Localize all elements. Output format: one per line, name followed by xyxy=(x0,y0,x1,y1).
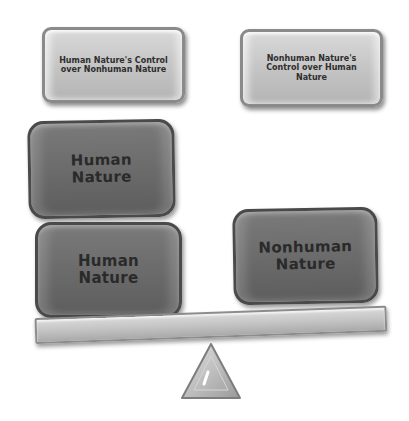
block-nonhuman-nature-text: Nonhuman Nature xyxy=(250,238,361,274)
block-human-nature-top-text: Human Nature xyxy=(61,151,142,187)
block-human-nature-bottom: Human Nature xyxy=(35,222,182,318)
label-box-human-control: Human Nature's Control over Nonhuman Nat… xyxy=(42,27,185,103)
fulcrum-triangle-icon xyxy=(178,342,244,402)
label-box-nonhuman-control: Nonhuman Nature's Control over Human Nat… xyxy=(240,29,383,107)
label-human-control-text: Human Nature's Control over Nonhuman Nat… xyxy=(45,56,182,74)
label-nonhuman-control-text: Nonhuman Nature's Control over Human Nat… xyxy=(243,54,380,82)
block-nonhuman-nature: Nonhuman Nature xyxy=(232,207,379,306)
block-human-nature-bottom-text: Human Nature xyxy=(69,253,149,288)
block-human-nature-top: Human Nature xyxy=(27,119,176,220)
